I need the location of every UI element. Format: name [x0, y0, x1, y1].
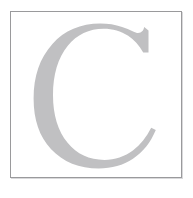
letter-tile-canvas: C	[0, 0, 193, 198]
glyph-area: C	[11, 12, 181, 177]
